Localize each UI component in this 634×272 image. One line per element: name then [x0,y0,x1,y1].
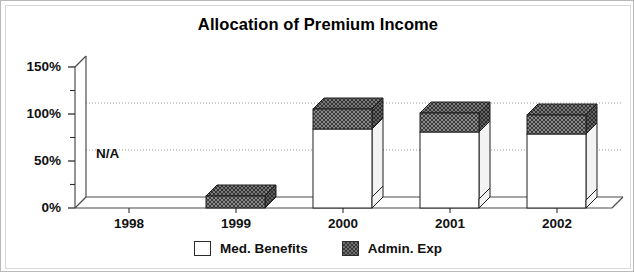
x-axis-label-1999: 1999 [191,216,281,231]
y-axis-label-100: 100% [9,106,61,121]
na-annotation: N/A [96,146,119,161]
bar-1999[interactable] [206,185,276,208]
chart-frame: Allocation of Premium Income [0,0,634,272]
x-axis-label-1998: 1998 [84,216,174,231]
chart-plot-area: 150% 100% 50% 0% N/A 1998 1999 2000 2001… [1,1,634,272]
legend-label-admin-exp: Admin. Exp [368,241,442,256]
hatched-square-swatch-icon [342,241,359,256]
y-axis-minor-ticks [70,91,75,185]
x-axis-ticks [129,208,557,213]
legend-item-admin-exp[interactable]: Admin. Exp [342,241,442,256]
x-axis-label-2000: 2000 [298,216,388,231]
chart-legend: Med. Benefits Admin. Exp [1,237,634,259]
y-axis-label-0: 0% [9,200,61,215]
y-axis-label-50: 50% [9,153,61,168]
legend-item-med-benefits[interactable]: Med. Benefits [194,241,308,256]
y-axis-label-150: 150% [9,59,61,74]
legend-label-med-benefits: Med. Benefits [220,241,308,256]
x-axis-label-2002: 2002 [512,216,602,231]
x-axis-label-2001: 2001 [405,216,495,231]
chart-svg [1,1,634,272]
white-square-swatch-icon [194,241,211,256]
bar-2000[interactable] [313,98,383,208]
bar-2002[interactable] [527,104,597,208]
bar-2001[interactable] [420,102,490,208]
